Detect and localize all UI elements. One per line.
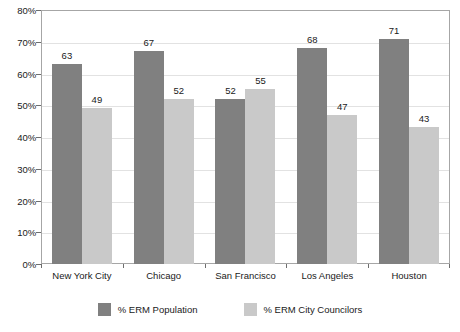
bar-value-label: 52 [210,85,250,96]
bar-group: 5255 [205,10,287,264]
chart-legend: % ERM Population% ERM City Councilors [0,303,460,316]
bar-value-label: 52 [159,85,199,96]
x-tick-mark [368,264,369,268]
x-axis: New York CityChicagoSan FranciscoLos Ang… [41,270,450,286]
bar-value-label: 67 [129,37,169,48]
bar-value-label: 43 [404,113,444,124]
x-tick-mark [286,264,287,268]
bar-group: 6349 [41,10,123,264]
legend-swatch-icon [98,303,111,316]
bars-layer: 63496752525568477143 [41,10,450,264]
bar-group: 6752 [123,10,205,264]
y-tick-label: 40% [0,132,36,143]
x-tick-label: Chicago [146,270,181,281]
bar-value-label: 71 [374,25,414,36]
bar-value-label: 55 [240,75,280,86]
x-axis-ticks [41,264,450,269]
bar[interactable] [379,39,409,264]
bar-value-label: 47 [322,101,362,112]
x-tick-label: Los Angeles [301,270,353,281]
x-tick-label: Houston [391,270,426,281]
bar[interactable] [82,108,112,264]
legend-label: % ERM Population [118,304,198,315]
y-axis: 0%10%20%30%40%50%60%70%80% [0,10,36,264]
x-tick-label: San Francisco [215,270,276,281]
bar[interactable] [215,99,245,264]
legend-item[interactable]: % ERM Population [98,303,198,316]
legend-item[interactable]: % ERM City Councilors [244,303,363,316]
legend-label: % ERM City Councilors [264,304,363,315]
y-tick-label: 50% [0,100,36,111]
bar[interactable] [409,127,439,264]
bar-value-label: 49 [77,94,117,105]
legend-swatch-icon [244,303,257,316]
y-tick-label: 80% [0,5,36,16]
bar[interactable] [164,99,194,264]
y-tick-label: 20% [0,195,36,206]
bar-group: 6847 [286,10,368,264]
y-tick-label: 60% [0,68,36,79]
bar-value-label: 68 [292,34,332,45]
y-tick-label: 10% [0,227,36,238]
bar[interactable] [297,48,327,264]
y-tick-label: 70% [0,36,36,47]
bar[interactable] [134,51,164,264]
x-tick-label: New York City [52,270,111,281]
bar[interactable] [245,89,275,264]
x-tick-mark [123,264,124,268]
y-tick-label: 0% [0,259,36,270]
x-tick-mark [41,264,42,268]
x-tick-mark [449,264,450,268]
bar-group: 7143 [368,10,450,264]
bar-value-label: 63 [47,50,87,61]
y-tick-label: 30% [0,163,36,174]
x-tick-mark [205,264,206,268]
bar[interactable] [327,115,357,264]
bar-chart: 0%10%20%30%40%50%60%70%80% 6349675252556… [0,0,460,332]
